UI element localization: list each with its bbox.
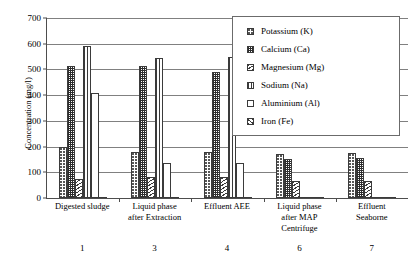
legend-swatch-icon	[247, 100, 254, 107]
bar	[316, 197, 324, 198]
bar	[300, 197, 308, 198]
bar	[163, 163, 171, 198]
bar	[388, 197, 396, 198]
bar	[67, 66, 75, 198]
x-axis-sample-number: 1	[46, 243, 118, 253]
legend-label: Sodium (Na)	[261, 80, 308, 90]
y-axis-title: Concentration (mg/l)	[23, 38, 33, 188]
bar	[284, 159, 292, 198]
bar	[212, 72, 220, 198]
bar	[204, 152, 212, 198]
legend-swatch-icon	[247, 28, 254, 35]
bar	[83, 46, 91, 198]
x-axis-category-label: EffluentSeaborne	[336, 201, 408, 234]
legend-item: Calcium (Ca)	[233, 40, 399, 58]
legend-swatch-icon	[247, 46, 254, 53]
legend-item: Sodium (Na)	[233, 76, 399, 94]
bar	[131, 152, 139, 198]
legend-label: Aluminium (Al)	[261, 98, 320, 108]
bar	[75, 179, 83, 198]
legend-label: Calcium (Ca)	[261, 44, 310, 54]
legend-item: Magnesium (Mg)	[233, 58, 399, 76]
legend-item: Potassium (K)	[233, 22, 399, 40]
bar	[139, 66, 147, 198]
bar	[380, 197, 388, 198]
bar	[244, 197, 252, 198]
legend-swatch-icon	[247, 82, 254, 89]
x-axis-category-label: Liquid phaseafter Extraction	[118, 201, 190, 234]
bar	[348, 153, 356, 198]
x-axis-category-label: Liquid phaseafter MAPCentrifuge	[263, 201, 335, 234]
x-axis-category-label: Digested sludge	[46, 201, 118, 234]
x-axis-sample-number: 3	[118, 243, 190, 253]
bar	[171, 197, 179, 198]
bar	[364, 181, 372, 198]
legend-swatch-icon	[247, 118, 254, 125]
bar	[276, 154, 284, 198]
bar	[220, 177, 228, 198]
legend-swatch-icon	[247, 64, 254, 71]
legend-label: Potassium (K)	[261, 26, 313, 36]
legend-label: Magnesium (Mg)	[261, 62, 324, 72]
bar	[236, 163, 244, 198]
bar-chart: Concentration (mg/l) 0100200300400500600…	[0, 0, 415, 272]
bar	[59, 147, 67, 198]
bar	[372, 197, 380, 198]
x-axis-sample-number: 4	[191, 243, 263, 253]
bar	[99, 197, 107, 198]
bar	[91, 93, 99, 198]
bar	[155, 58, 163, 198]
bar-group	[47, 18, 119, 198]
bar	[356, 158, 364, 198]
bar	[308, 197, 316, 198]
legend: Potassium (K)Calcium (Ca)Magnesium (Mg)S…	[232, 16, 400, 136]
x-axis-category-label: Effluent AEE	[191, 201, 263, 234]
legend-label: Iron (Fe)	[261, 116, 293, 126]
bar	[292, 181, 300, 198]
legend-item: Aluminium (Al)	[233, 94, 399, 112]
x-axis-labels: Digested sludgeLiquid phaseafter Extract…	[46, 201, 408, 234]
x-axis-numbers: 13467	[46, 243, 408, 253]
x-axis-sample-number: 6	[263, 243, 335, 253]
bar-group	[119, 18, 191, 198]
x-axis-sample-number: 7	[336, 243, 408, 253]
bar	[147, 177, 155, 198]
legend-item: Iron (Fe)	[233, 112, 399, 130]
